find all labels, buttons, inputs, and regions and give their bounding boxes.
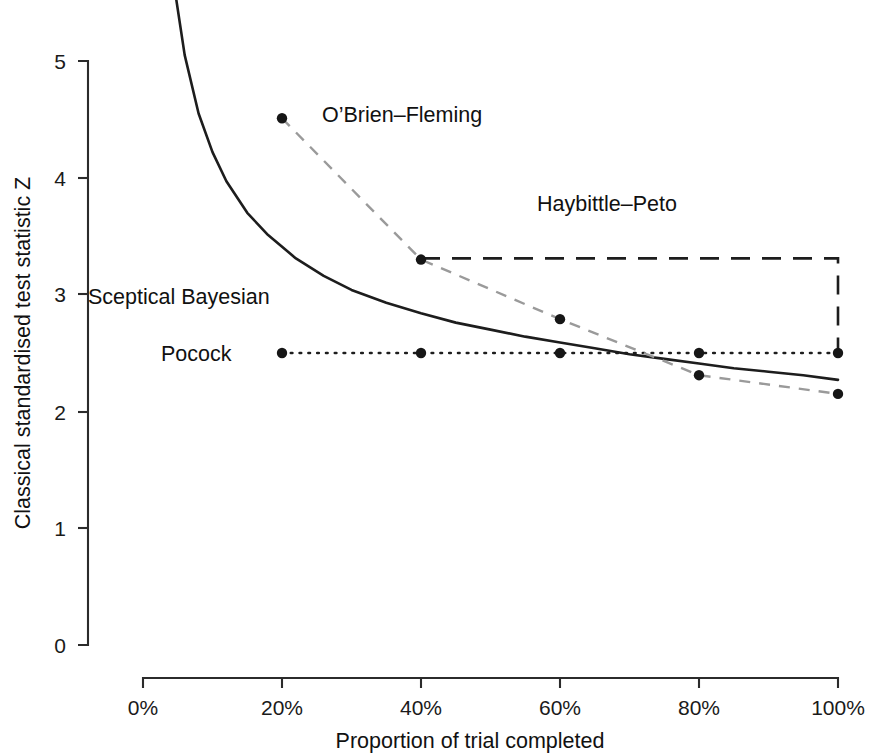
annotation-layer: O’Brien–Fleming Haybittle–Peto Sceptical… — [88, 103, 677, 366]
x-axis-line — [143, 678, 838, 688]
data-point-marker — [833, 389, 843, 399]
y-axis-title: Classical standardised test statistic Z — [11, 177, 35, 530]
y-tick-label-5: 5 — [54, 50, 66, 73]
chart-figure: 5 4 3 2 1 0 Classical standardised test … — [0, 0, 881, 753]
x-tick-label-0: 0% — [128, 696, 158, 719]
y-tick-label-2: 2 — [54, 401, 66, 424]
data-point-marker — [277, 348, 287, 358]
data-point-marker — [694, 348, 704, 358]
y-tick-label-1: 1 — [54, 517, 66, 540]
x-tick-label-80: 80% — [678, 696, 720, 719]
data-point-marker — [555, 314, 565, 324]
label-haybittle-peto: Haybittle–Peto — [537, 192, 677, 216]
data-point-marker — [416, 348, 426, 358]
y-axis: 5 4 3 2 1 0 Classical standardised test … — [11, 50, 88, 657]
data-point-marker — [694, 370, 704, 380]
data-point-marker — [416, 254, 426, 264]
x-axis: 0% 20% 40% 60% 80% 100% Proportion of tr… — [128, 678, 865, 753]
y-tick-label-0: 0 — [54, 634, 66, 657]
label-obrien-fleming: O’Brien–Fleming — [322, 103, 482, 127]
series-sceptical-bayesian-line — [175, 0, 838, 380]
data-point-marker — [555, 348, 565, 358]
x-tick-label-60: 60% — [539, 696, 581, 719]
y-tick-label-4: 4 — [54, 167, 66, 190]
x-tick-label-100: 100% — [811, 696, 865, 719]
series-haybittle-peto-line — [421, 258, 838, 353]
x-tick-label-40: 40% — [400, 696, 442, 719]
label-sceptical-bayesian: Sceptical Bayesian — [88, 285, 270, 309]
chart-svg: 5 4 3 2 1 0 Classical standardised test … — [0, 0, 881, 753]
marker-layer — [277, 113, 843, 399]
y-tick-label-3: 3 — [54, 283, 66, 306]
y-axis-line — [78, 61, 88, 645]
label-pocock: Pocock — [161, 342, 232, 366]
data-point-marker — [833, 348, 843, 358]
x-axis-title: Proportion of trial completed — [336, 729, 605, 753]
x-tick-label-20: 20% — [261, 696, 303, 719]
data-point-marker — [277, 113, 287, 123]
series-layer — [175, 0, 838, 394]
